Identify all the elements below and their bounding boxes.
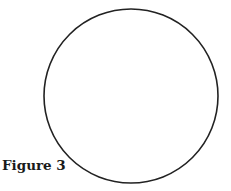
figure-caption: Figure 3 (2, 157, 66, 173)
circle-shape (44, 9, 218, 183)
